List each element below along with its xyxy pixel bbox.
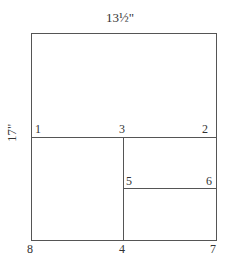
point-4-label: 4 xyxy=(119,243,125,255)
point-3-label: 3 xyxy=(119,123,125,135)
point-6-label: 6 xyxy=(206,175,212,187)
point-2-label: 2 xyxy=(202,123,208,135)
point-5-label: 5 xyxy=(126,175,132,187)
point-8-label: 8 xyxy=(27,243,33,255)
point-1-label: 1 xyxy=(35,123,41,135)
point-7-label: 7 xyxy=(210,243,216,255)
height-dimension-label: 17" xyxy=(6,124,18,142)
width-dimension-label: 13½" xyxy=(106,12,134,24)
